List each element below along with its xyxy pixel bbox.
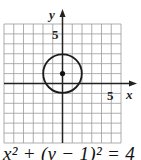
y-axis-label: y bbox=[47, 7, 55, 22]
equation-label: x² + (y − 1)² = 4 bbox=[3, 143, 135, 160]
x-axis-label: x bbox=[125, 87, 133, 102]
x-tick-label-5: 5 bbox=[107, 88, 114, 103]
x-axis-arrow-icon bbox=[129, 81, 137, 87]
y-tick-label-5: 5 bbox=[52, 27, 59, 42]
graph: y 5 5 x bbox=[0, 0, 141, 160]
center-point bbox=[60, 71, 65, 76]
y-axis-arrow-icon bbox=[60, 9, 66, 17]
